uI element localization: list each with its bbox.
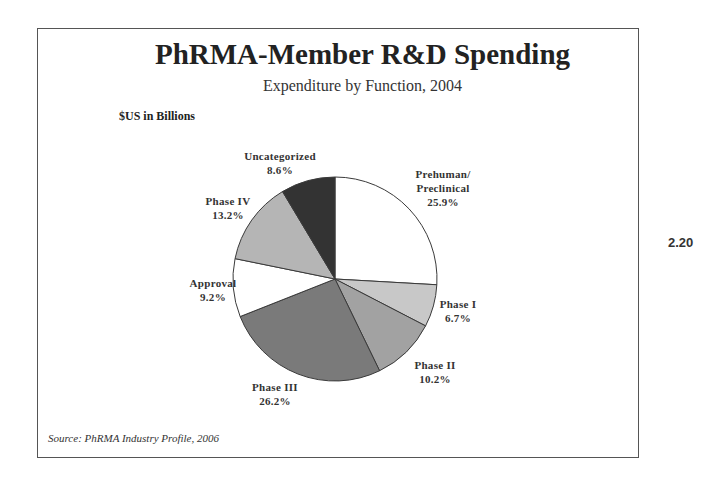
label-name: Phase II xyxy=(400,358,470,372)
label-name: Uncategorized xyxy=(235,149,325,163)
label-value: 25.9% xyxy=(398,195,488,209)
label-phase-2: Phase II 10.2% xyxy=(400,358,470,386)
label-name: Approval xyxy=(178,276,248,290)
label-approval: Approval 9.2% xyxy=(178,276,248,304)
label-name: Phase IV xyxy=(193,194,263,208)
label-phase-4: Phase IV 13.2% xyxy=(193,194,263,222)
label-value: 6.7% xyxy=(428,311,488,325)
label-uncategorized: Uncategorized 8.6% xyxy=(235,149,325,177)
label-name-cont: Preclinical xyxy=(398,181,488,195)
label-name: Phase I xyxy=(428,297,488,311)
label-value: 10.2% xyxy=(400,372,470,386)
label-name: Prehuman/ xyxy=(398,167,488,181)
label-name: Phase III xyxy=(240,380,310,394)
label-prehuman: Prehuman/ Preclinical 25.9% xyxy=(398,167,488,209)
label-phase-1: Phase I 6.7% xyxy=(428,297,488,325)
label-value: 13.2% xyxy=(193,208,263,222)
pie-chart xyxy=(0,0,725,487)
label-phase-3: Phase III 26.2% xyxy=(240,380,310,408)
source-note: Source: PhRMA Industry Profile, 2006 xyxy=(48,432,219,444)
page-number: 2.20 xyxy=(668,235,693,250)
label-value: 26.2% xyxy=(240,394,310,408)
label-value: 8.6% xyxy=(235,163,325,177)
label-value: 9.2% xyxy=(178,290,248,304)
